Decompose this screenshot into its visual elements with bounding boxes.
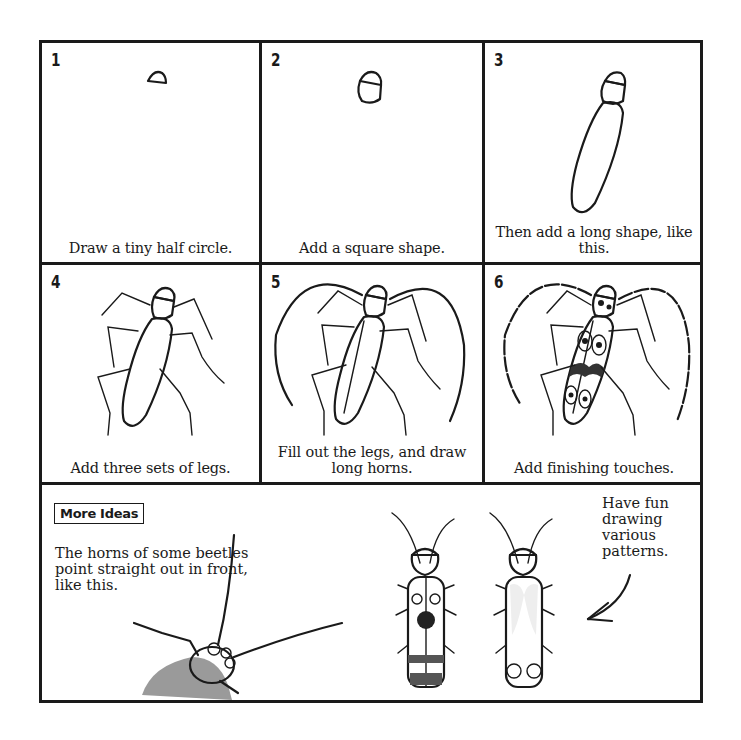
patterns-text: Have fun drawing various patterns.	[602, 495, 702, 559]
step-caption: Add three sets of legs.	[42, 460, 259, 476]
step-caption: Add a square shape.	[262, 240, 482, 256]
step-panel-1: 1 Draw a tiny half circle.	[42, 43, 259, 262]
step-panel-2: 2 Add a square shape.	[262, 43, 482, 262]
step-caption: Then add a long shape, like this.	[485, 224, 703, 256]
step-caption: Add finishing touches.	[485, 460, 703, 476]
legs-drawing	[42, 265, 259, 482]
step-panel-3: 3 Then add a long shape, like this.	[485, 43, 703, 262]
half-circle-drawing	[42, 43, 259, 262]
step-panel-6: 6 Add finishing touches.	[485, 265, 703, 482]
finished-beetle-drawing	[485, 265, 703, 482]
drawing-instruction-sheet: 1 Draw a tiny half circle. 2 Add a squar…	[39, 40, 703, 703]
more-ideas-panel: More Ideas The horns of some beetles poi…	[42, 485, 700, 700]
head-square-drawing	[262, 43, 482, 262]
step-panel-5: 5 Fill out the legs, and draw long horns…	[262, 265, 482, 482]
step-panel-4: 4 Add three sets of legs.	[42, 265, 259, 482]
step-caption: Draw a tiny half circle.	[42, 240, 259, 256]
step-caption: Fill out the legs, and draw long horns.	[262, 444, 482, 476]
